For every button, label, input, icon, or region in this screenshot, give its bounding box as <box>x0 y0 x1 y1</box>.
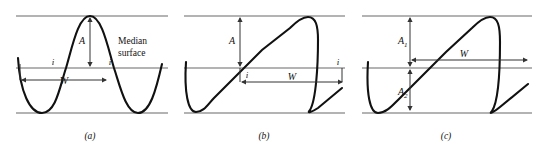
panel-b-amplitude-label: A <box>228 35 236 46</box>
panel-a-amplitude-label: A <box>78 35 86 46</box>
panel-c-amplitude-upper-subscript: 1 <box>404 41 408 49</box>
panel-a-median-surface-label-line1: Median <box>118 36 147 46</box>
panel-c-caption: (c) <box>441 131 452 142</box>
panel-c-amplitude-lower-subscript: 2 <box>404 92 408 100</box>
wave-profile-figure: A W i i Median surface (a) A W i i (b) <box>0 0 536 150</box>
panel-b-caption: (b) <box>258 131 269 142</box>
panel-a-caption: (a) <box>84 131 95 142</box>
panel-a-median-surface-label-line2: surface <box>118 48 145 58</box>
figure-canvas: A W i i Median surface (a) A W i i (b) <box>0 0 536 150</box>
